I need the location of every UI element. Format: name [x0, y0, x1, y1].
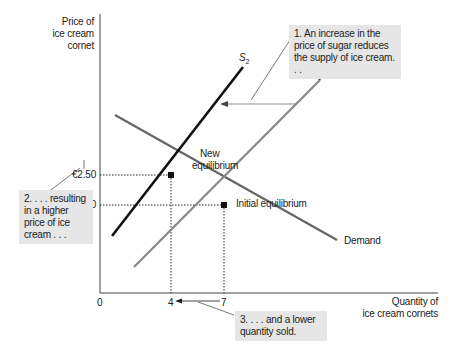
shift-arrowhead-icon: [220, 101, 228, 107]
qty-arrowhead-icon: [175, 299, 182, 304]
note1-leader: [251, 40, 290, 100]
annotation-note1: 1. An increase in the price of sugar red…: [289, 25, 401, 79]
new-equilibrium-point: [168, 172, 174, 178]
supply-curve-s2: [112, 67, 243, 236]
x-axis-label-line2: ice cream cornets: [340, 308, 438, 320]
demand-label: Demand: [344, 235, 381, 247]
demand-curve: [115, 115, 337, 240]
s2-label: S2: [239, 52, 249, 68]
x-axis-label-line1: Quantity of: [340, 296, 438, 308]
x-tick-4: 4: [168, 297, 173, 309]
initial-equilibrium-point: [221, 202, 227, 208]
y-axis-label: Price of ice cream cornet: [40, 16, 94, 52]
initial-equilibrium-label: Initial equilibrium: [236, 198, 307, 210]
origin-label: 0: [97, 297, 102, 309]
new-equilibrium-label-line1: New: [200, 148, 219, 160]
x-tick-7: 7: [221, 297, 226, 309]
y-tick-2-50: €2.50: [50, 169, 96, 181]
note3-leader: [198, 302, 234, 315]
new-equilibrium-label-line2: equilibrium: [192, 160, 238, 172]
annotation-note3: 3. . . . and a lower quantity sold.: [235, 311, 327, 341]
annotation-note2: 2. . . . resulting in a higher price of …: [19, 190, 93, 244]
